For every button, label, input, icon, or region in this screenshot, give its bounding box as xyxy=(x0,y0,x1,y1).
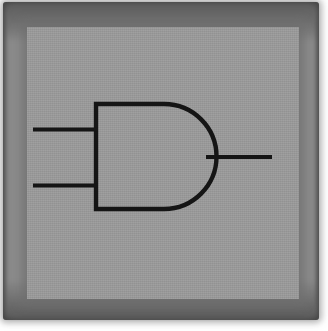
and-gate-body-outline xyxy=(96,104,217,209)
logic-gate-image: AND gate body AND gate distinctive-shape… xyxy=(0,0,328,331)
and-gate-diagram xyxy=(0,0,328,331)
